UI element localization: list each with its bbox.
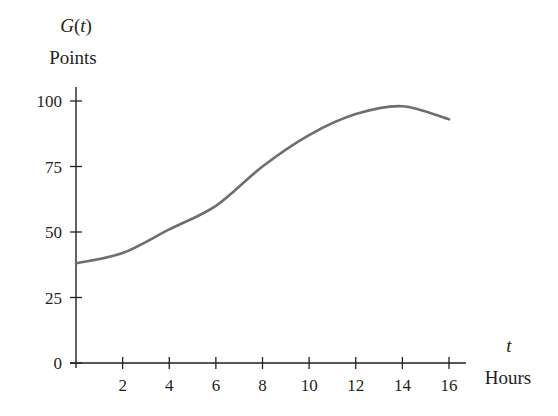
y-tick-label: 100 [37, 92, 63, 111]
x-tick-label: 12 [347, 376, 364, 395]
x-tick-label: 4 [165, 376, 174, 395]
x-tick-label: 16 [441, 376, 458, 395]
x-axis: 246810121416 [70, 357, 466, 395]
x-axis-variable-label: t [506, 335, 512, 356]
data-series-line [76, 106, 449, 263]
y-axis-units-label: Points [49, 47, 97, 68]
x-axis-units-label: Hours [485, 367, 531, 388]
y-axis: 0255075100 [37, 87, 83, 373]
x-tick-label: 8 [258, 376, 267, 395]
x-tick-label: 6 [212, 376, 221, 395]
y-tick-label: 75 [45, 158, 62, 177]
x-tick-label: 2 [118, 376, 127, 395]
x-tick-label: 10 [301, 376, 318, 395]
line-chart: 0255075100 246810121416 G(t) Points t Ho… [0, 0, 558, 416]
y-tick-label: 50 [45, 223, 62, 242]
y-tick-label: 0 [54, 354, 63, 373]
y-axis-function-label: G(t) [60, 15, 92, 37]
x-tick-label: 14 [394, 376, 412, 395]
y-tick-label: 25 [45, 289, 62, 308]
